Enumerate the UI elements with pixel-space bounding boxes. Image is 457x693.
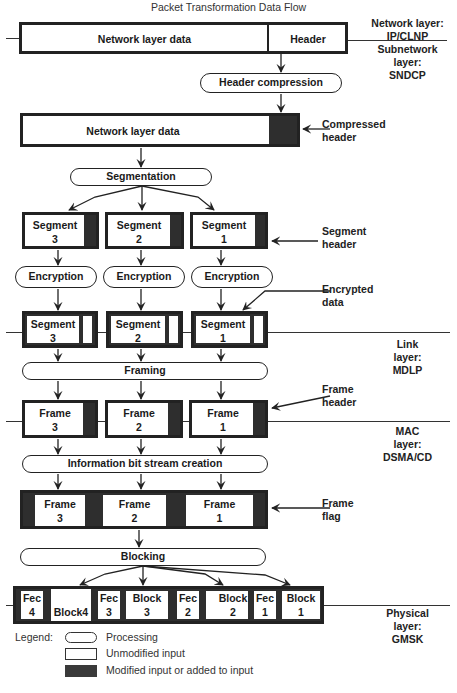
flow-arrows xyxy=(0,0,457,693)
